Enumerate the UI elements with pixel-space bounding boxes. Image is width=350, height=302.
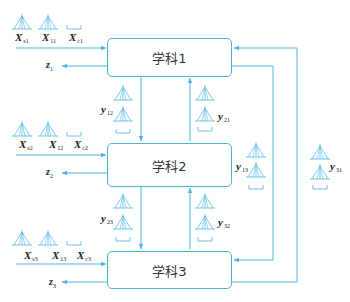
input-label-x13: X13 xyxy=(52,250,66,265)
input-icons-d1 xyxy=(12,14,81,29)
coupling-label-y21: y21 xyxy=(218,111,230,126)
input-label-x12: X12 xyxy=(49,139,63,154)
discipline-1-box: 学科1 xyxy=(107,38,232,77)
input-icons-d2 xyxy=(12,121,81,136)
discipline-2-label: 学科2 xyxy=(152,156,186,175)
discipline-1-label: 学科1 xyxy=(152,48,186,67)
discipline-2-box: 学科2 xyxy=(107,143,232,187)
output-label-z1: z1 xyxy=(46,59,53,72)
input-label-x11: X11 xyxy=(42,32,56,47)
discipline-3-label: 学科3 xyxy=(152,261,186,280)
coupling-label-y31: y31 xyxy=(330,161,342,176)
coupling-label-y23: y23 xyxy=(101,213,113,228)
output-label-z2: z2 xyxy=(46,166,53,179)
input-label-xc1: Xc1 xyxy=(69,32,83,47)
output-label-z3: z3 xyxy=(49,276,56,289)
mdo-diagram: 学科1 学科2 学科3 Xs1 X11 Xc1 Xs2 X12 Xc2 Xs3 … xyxy=(0,0,350,302)
coupling-label-y12: y12 xyxy=(101,104,113,119)
coupling-label-y13: y13 xyxy=(236,161,248,176)
input-label-xs1: Xs1 xyxy=(15,32,29,47)
input-label-xc2: Xc2 xyxy=(74,139,88,154)
discipline-3-box: 学科3 xyxy=(107,251,232,289)
coupling-label-y32: y32 xyxy=(218,217,230,232)
input-label-xc3: Xc3 xyxy=(77,250,91,265)
input-icons-d3 xyxy=(12,230,81,245)
input-label-xs3: Xs3 xyxy=(24,250,38,265)
input-label-xs2: Xs2 xyxy=(19,139,33,154)
